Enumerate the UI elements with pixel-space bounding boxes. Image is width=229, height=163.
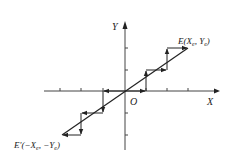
- endpoint-e-label: E(Xe, Ye): [177, 36, 210, 47]
- endpoint-e-prime-label: E'(−Xe, −Ye): [13, 140, 60, 151]
- x-axis-label: X: [206, 96, 214, 107]
- x-axis-arrow-icon: [214, 89, 220, 94]
- origin-label: O: [130, 96, 137, 107]
- y-axis-arrow-icon: [123, 21, 128, 29]
- y-axis-label: Y: [112, 21, 119, 32]
- interpolation-diagram: Y X O E(Xe, Ye) E'(−Xe, −Ye): [0, 0, 229, 163]
- y-axis: [123, 21, 129, 150]
